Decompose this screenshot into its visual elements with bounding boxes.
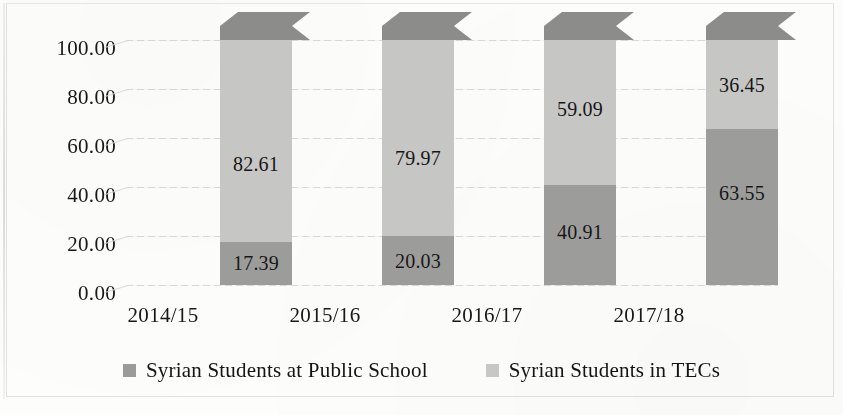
legend-item-public-school: Syrian Students at Public School <box>123 358 428 383</box>
x-tick-label-1: 2015/16 <box>250 303 400 328</box>
bar-segment-public-school: 63.55 <box>706 129 778 285</box>
bar-segment-tecs: 79.97 <box>382 40 454 236</box>
bar-side-face <box>454 26 472 271</box>
legend-item-tecs: Syrian Students in TECs <box>486 358 720 383</box>
x-tick-label-3: 2017/18 <box>574 303 724 328</box>
bar-segment-tecs: 82.61 <box>220 40 292 242</box>
legend-label: Syrian Students at Public School <box>146 358 428 383</box>
plot-area: 82.6117.3979.9720.0359.0940.9136.4563.55 <box>126 40 778 296</box>
bar-top-face <box>220 26 292 40</box>
bar-segment-public-school: 20.03 <box>382 236 454 285</box>
bar-value-label: 63.55 <box>719 183 765 203</box>
bar-segment-public-school: 17.39 <box>220 242 292 285</box>
legend-label: Syrian Students in TECs <box>509 358 720 383</box>
bar-segment-tecs: 36.45 <box>706 40 778 129</box>
bar-value-label: 82.61 <box>233 154 279 174</box>
y-tick-label-60: 60.00 <box>67 134 116 159</box>
bar-value-label: 20.03 <box>395 251 441 271</box>
y-tick-label-40: 40.00 <box>67 183 116 208</box>
bar-value-label: 59.09 <box>557 99 603 119</box>
legend-swatch-icon <box>486 364 499 377</box>
bar-side-face <box>778 26 796 271</box>
bar-top-face <box>544 26 616 40</box>
y-tick-label-100: 100.00 <box>56 36 116 61</box>
y-axis: 100.00 80.00 60.00 40.00 20.00 0.00 <box>8 0 116 415</box>
bar-2014-15: 82.6117.39 <box>220 40 292 285</box>
y-tick-label-20: 20.00 <box>67 232 116 257</box>
gridline-0 <box>126 285 778 286</box>
bar-side-face <box>292 26 310 271</box>
bar-value-label: 40.91 <box>557 222 603 242</box>
bar-2015-16: 79.9720.03 <box>382 40 454 285</box>
bar-top-face <box>706 26 778 40</box>
bar-top-face <box>382 26 454 40</box>
chart-legend: Syrian Students at Public School Syrian … <box>0 358 843 383</box>
bar-segment-public-school: 40.91 <box>544 185 616 285</box>
bar-2016-17: 59.0940.91 <box>544 40 616 285</box>
stacked-column-chart: 100.00 80.00 60.00 40.00 20.00 0.00 82.6… <box>0 0 843 415</box>
bar-value-label: 17.39 <box>233 253 279 273</box>
bar-2017-18: 36.4563.55 <box>706 40 778 285</box>
legend-swatch-icon <box>123 364 136 377</box>
y-tick-label-80: 80.00 <box>67 85 116 110</box>
bar-side-face <box>616 26 634 271</box>
bar-value-label: 79.97 <box>395 148 441 168</box>
bar-segment-tecs: 59.09 <box>544 40 616 185</box>
x-tick-label-0: 2014/15 <box>88 303 238 328</box>
bar-value-label: 36.45 <box>719 75 765 95</box>
x-tick-label-2: 2016/17 <box>412 303 562 328</box>
